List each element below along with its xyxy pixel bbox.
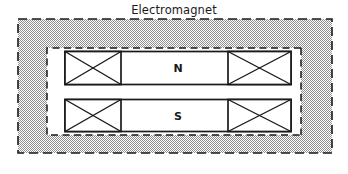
north-pole-label: N [173,62,182,75]
electromagnet-diagram: Electromagnet N S [0,0,348,174]
diagram-canvas: Electromagnet N S [0,0,348,174]
coil-lower-right [228,100,291,132]
yoke-body [18,19,332,153]
coil-upper-right [228,52,291,85]
south-pole-label: S [174,110,182,123]
coil-upper-left [65,52,121,85]
coil-lower-left [65,100,121,132]
figure-title: Electromagnet [131,3,217,17]
yoke-hatch-fill [18,19,332,153]
